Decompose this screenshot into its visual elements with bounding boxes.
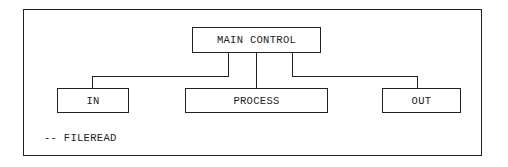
node-label: IN: [86, 95, 99, 107]
node-label: OUT: [412, 95, 432, 107]
connector-in-horizontal: [92, 76, 229, 77]
node-in: IN: [57, 88, 129, 113]
connector-out-horizontal: [292, 76, 418, 77]
node-out: OUT: [382, 88, 461, 113]
fileread-note: -- FILEREAD: [44, 132, 117, 144]
node-main-control: MAIN CONTROL: [192, 27, 321, 53]
connector-in-vertical-top: [228, 53, 229, 77]
connector-process: [256, 53, 257, 88]
node-label: PROCESS: [233, 95, 279, 107]
connector-in-vertical-bottom: [92, 76, 93, 88]
node-process: PROCESS: [185, 88, 328, 113]
connector-out-vertical-top: [292, 53, 293, 77]
node-label: MAIN CONTROL: [217, 34, 296, 46]
connector-out-vertical-bottom: [417, 76, 418, 88]
